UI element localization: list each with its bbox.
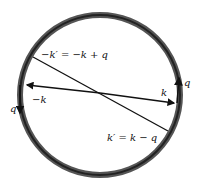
- diagram-graphics: [0, 0, 200, 184]
- label-q-left: q: [10, 104, 16, 114]
- k-prime-line: [33, 57, 168, 131]
- label-k: k: [161, 88, 167, 98]
- diagram-canvas: −k′ = −k + q −k k k′ = k − q q q: [0, 0, 200, 184]
- neg-k-vector-arrow: [27, 85, 100, 93]
- label-neg-k: −k: [32, 95, 46, 105]
- label-k-prime: k′ = k − q: [107, 133, 157, 143]
- label-q-right: q: [184, 78, 190, 88]
- label-neg-k-prime: −k′ = −k + q: [41, 50, 108, 60]
